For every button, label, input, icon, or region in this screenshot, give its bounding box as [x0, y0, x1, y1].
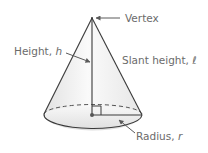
vertex-point: [91, 17, 93, 19]
base-center-point: [90, 113, 94, 117]
radius-label: Radius, r: [136, 130, 183, 142]
height-label: Height, h: [14, 45, 62, 57]
cone-diagram: Vertex Height, h Slant height, ℓ Radius,…: [0, 0, 208, 153]
slant-height-label: Slant height, ℓ: [122, 54, 197, 66]
vertex-label: Vertex: [125, 12, 159, 24]
